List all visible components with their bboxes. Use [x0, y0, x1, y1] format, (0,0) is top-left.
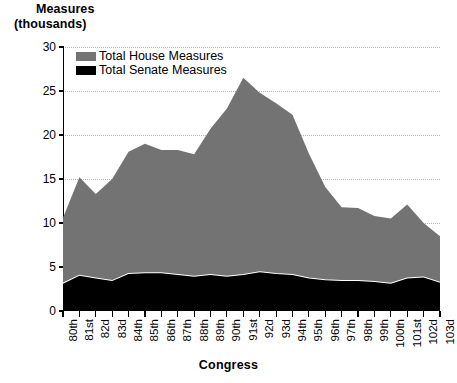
y-axis-tick-label: 15: [26, 173, 56, 185]
stacked-area-series: [63, 47, 440, 311]
chart-figure: Measures (thousands) 051015202530 80th81…: [0, 0, 457, 383]
x-axis-tick-label: 87th: [182, 319, 194, 341]
x-axis-tick-label: 92d: [264, 319, 276, 338]
y-axis-tick-label: 20: [26, 129, 56, 141]
x-axis-tick-label: 83d: [117, 319, 129, 338]
x-axis-tick-label: 80th: [68, 319, 80, 341]
legend-label-house: Total House Measures: [99, 49, 223, 63]
x-axis-title: Congress: [0, 358, 457, 372]
y-axis-tick-label: 0: [26, 305, 56, 317]
x-axis-tick-mark: [79, 311, 80, 317]
y-axis-tick-label: 10: [26, 217, 56, 229]
x-axis-tick-label: 93d: [281, 319, 293, 338]
x-axis-tick-label: 86th: [166, 319, 178, 341]
x-axis-tick-mark: [357, 311, 358, 317]
x-axis-tick-label: 81st: [84, 319, 96, 341]
x-axis-tick-mark: [95, 311, 96, 317]
x-axis-tick-label: 95th: [313, 319, 325, 341]
x-axis-tick-label: 101st: [412, 319, 424, 347]
y-axis-title-line1: Measures: [14, 2, 154, 17]
y-axis-tick-label: 30: [26, 41, 56, 53]
x-axis-tick-mark: [390, 311, 391, 317]
x-axis-tick-label: 97th: [346, 319, 358, 341]
x-axis-tick-label: 99th: [379, 319, 391, 341]
x-axis-tick-mark: [62, 311, 63, 317]
legend-item-house: Total House Measures: [76, 49, 227, 63]
x-axis-tick-mark: [112, 311, 113, 317]
legend-swatch-house-icon: [76, 52, 96, 61]
x-axis-tick-label: 90th: [231, 319, 243, 341]
x-axis-tick-mark: [161, 311, 162, 317]
x-axis-tick-mark: [423, 311, 424, 317]
x-axis-tick-label: 91st: [248, 319, 260, 341]
x-axis-tick-label: 100th: [395, 319, 407, 348]
x-axis-tick-label: 96th: [330, 319, 342, 341]
x-axis-tick-mark: [226, 311, 227, 317]
x-axis-tick-mark: [210, 311, 211, 317]
x-axis-tick-mark: [407, 311, 408, 317]
x-axis-tick-mark: [439, 311, 440, 317]
x-axis-tick-mark: [259, 311, 260, 317]
x-axis-tick-mark: [292, 311, 293, 317]
x-axis-tick-label: 89th: [215, 319, 227, 341]
y-axis-tick-label: 25: [26, 85, 56, 97]
x-axis-tick-label: 102d: [428, 319, 440, 345]
x-axis-tick-mark: [177, 311, 178, 317]
x-axis-tick-mark: [144, 311, 145, 317]
x-axis-tick-mark: [276, 311, 277, 317]
legend: Total House Measures Total Senate Measur…: [76, 49, 227, 77]
x-axis-tick-label: 88th: [199, 319, 211, 341]
legend-label-senate: Total Senate Measures: [99, 63, 227, 77]
y-axis-title-line2: (thousands): [14, 17, 154, 32]
x-axis-tick-label: 82d: [100, 319, 112, 338]
plot-area: 051015202530 80th81st82d83d84th85th86th8…: [63, 47, 440, 311]
x-axis-tick-label: 98th: [363, 319, 375, 341]
house-measures-area: [63, 78, 440, 284]
x-axis-tick-mark: [128, 311, 129, 317]
legend-swatch-senate-icon: [76, 66, 96, 75]
x-axis-tick-mark: [308, 311, 309, 317]
x-axis-tick-label: 103d: [445, 319, 457, 345]
x-axis-tick-mark: [243, 311, 244, 317]
x-axis-tick-label: 84th: [133, 319, 145, 341]
x-axis-tick-label: 85th: [149, 319, 161, 341]
x-axis-tick-mark: [341, 311, 342, 317]
y-axis-title: Measures (thousands): [14, 2, 154, 32]
x-axis-tick-mark: [194, 311, 195, 317]
x-axis-tick-label: 94th: [297, 319, 309, 341]
y-axis-tick-label: 5: [26, 261, 56, 273]
x-axis-tick-mark: [325, 311, 326, 317]
legend-item-senate: Total Senate Measures: [76, 63, 227, 77]
x-axis-tick-mark: [374, 311, 375, 317]
